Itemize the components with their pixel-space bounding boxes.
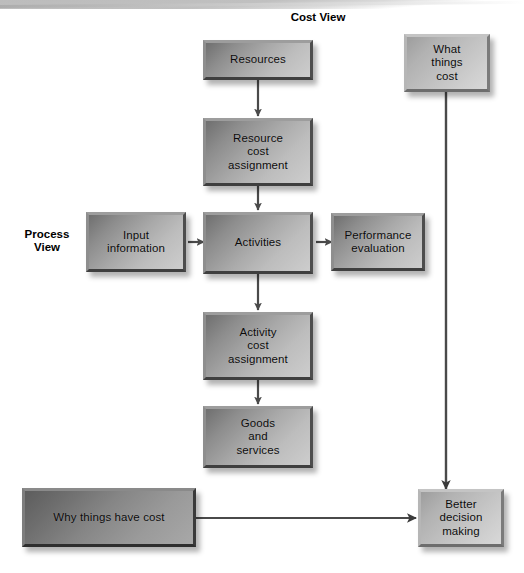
node-input-information-label: Input information	[103, 229, 169, 256]
node-resources[interactable]: Resources	[203, 40, 313, 80]
node-performance-evaluation-label: Performance evaluation	[341, 229, 416, 256]
node-why-things-have-cost-label: Why things have cost	[49, 511, 168, 525]
node-input-information-line2: information	[107, 242, 165, 254]
process-view-label-line2: View	[34, 241, 60, 253]
node-performance-evaluation[interactable]: Performance evaluation	[331, 213, 425, 271]
node-performance-evaluation-line1: Performance	[345, 229, 412, 241]
node-input-information-line1: Input	[123, 229, 149, 241]
node-what-things-cost[interactable]: What things cost	[404, 34, 490, 92]
node-better-decision-making-label: Better decision making	[436, 498, 487, 539]
node-goods-and-services-line2: and	[248, 430, 268, 442]
node-better-decision-making-line3: making	[442, 525, 480, 537]
node-resource-cost-assignment-label: Resource cost assignment	[224, 132, 292, 173]
node-activities[interactable]: Activities	[203, 212, 313, 274]
process-view-label: Process View	[16, 228, 78, 254]
node-goods-and-services-line3: services	[237, 444, 280, 456]
node-resource-cost-assignment-line3: assignment	[228, 159, 288, 171]
node-better-decision-making[interactable]: Better decision making	[418, 489, 504, 547]
node-input-information[interactable]: Input information	[86, 212, 186, 272]
scan-artifact-band	[0, 0, 524, 9]
node-better-decision-making-line2: decision	[440, 511, 483, 523]
node-resource-cost-assignment[interactable]: Resource cost assignment	[203, 118, 313, 186]
diagram-canvas: Cost View Process View Resources Resourc…	[0, 0, 524, 573]
node-resource-cost-assignment-line2: cost	[247, 145, 269, 157]
node-resource-cost-assignment-line1: Resource	[233, 132, 283, 144]
node-activities-label: Activities	[231, 236, 285, 250]
node-performance-evaluation-line2: evaluation	[351, 242, 404, 254]
node-activity-cost-assignment-label: Activity cost assignment	[224, 326, 292, 367]
node-resources-label: Resources	[226, 53, 290, 67]
node-goods-and-services-label: Goods and services	[233, 417, 284, 458]
node-goods-and-services[interactable]: Goods and services	[203, 406, 313, 468]
node-activity-cost-assignment-line3: assignment	[228, 353, 288, 365]
node-goods-and-services-line1: Goods	[241, 417, 275, 429]
cost-view-label: Cost View	[283, 11, 353, 24]
node-better-decision-making-line1: Better	[445, 498, 476, 510]
node-activity-cost-assignment[interactable]: Activity cost assignment	[203, 312, 313, 380]
node-activity-cost-assignment-line2: cost	[247, 339, 269, 351]
node-what-things-cost-line1: What	[433, 43, 460, 55]
node-activity-cost-assignment-line1: Activity	[239, 326, 276, 338]
process-view-label-line1: Process	[25, 228, 70, 240]
node-what-things-cost-line3: cost	[436, 70, 458, 82]
node-why-things-have-cost[interactable]: Why things have cost	[22, 488, 196, 547]
node-what-things-cost-line2: things	[431, 56, 462, 68]
node-what-things-cost-label: What things cost	[427, 43, 466, 84]
